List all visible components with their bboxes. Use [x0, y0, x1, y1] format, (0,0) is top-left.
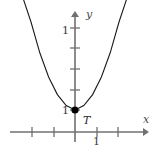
y-axis [70, 15, 80, 142]
x-axis [10, 127, 145, 137]
point-t-marker[interactable] [71, 106, 78, 113]
y-axis-tick-label-vertex: 1 [62, 105, 69, 116]
graph-figure: y x 1 1 1 T [0, 0, 160, 158]
point-t-label: T [83, 115, 90, 126]
y-axis-label: y [86, 9, 92, 20]
y-axis-tick-label-upper: 1 [62, 25, 69, 36]
plot-canvas [0, 0, 160, 158]
x-axis-label: x [143, 114, 149, 125]
x-axis-tick-label: 1 [93, 136, 100, 147]
